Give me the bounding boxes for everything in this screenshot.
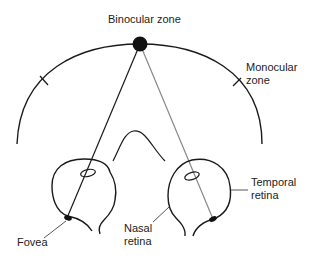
right-temporal-retina-mark	[208, 215, 217, 223]
fixation-point	[133, 37, 148, 52]
fovea-label: Fovea	[17, 236, 48, 248]
nasal-retina-leader	[153, 207, 169, 222]
diagram-canvas: Binocular zone Monocular zone Temporal r…	[0, 0, 312, 261]
nasal-retina-label-line1: Nasal	[124, 222, 152, 234]
right-eye	[168, 159, 230, 236]
left-lens	[80, 168, 96, 178]
monocular-zone-label-line1: Monocular	[246, 61, 298, 73]
right-lens	[184, 170, 200, 181]
nasal-retina-label-line2: retina	[124, 235, 152, 247]
monocular-zone-label-line2: zone	[246, 74, 270, 86]
binocular-vision-diagram: Binocular zone Monocular zone Temporal r…	[0, 0, 312, 261]
temporal-retina-label-line2: retina	[251, 189, 279, 201]
nose-outline	[113, 131, 165, 161]
right-line-of-sight	[140, 44, 213, 219]
right-zone-tick	[233, 78, 241, 86]
binocular-zone-label: Binocular zone	[108, 13, 181, 25]
left-line-of-sight	[67, 44, 140, 218]
right-eyeball	[168, 159, 230, 236]
visual-field-arc	[17, 44, 262, 144]
left-eye	[52, 159, 116, 234]
temporal-retina-label-line1: Temporal	[251, 176, 296, 188]
